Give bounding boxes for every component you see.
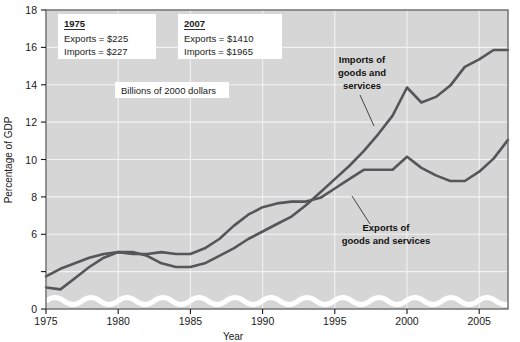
x-tick-label-1990: 1990	[251, 315, 275, 327]
y-tick-label-14: 14	[25, 79, 37, 91]
y-tick-label-16: 16	[25, 41, 37, 53]
units-note-text: Billions of 2000 dollars	[121, 85, 216, 96]
y-tick-label-8: 8	[31, 191, 37, 203]
x-axis-title: Year	[223, 331, 244, 342]
x-tick-label-1995: 1995	[323, 315, 347, 327]
callout-1975-title: 1975	[64, 18, 86, 29]
callout-1975-exports: Exports = $225	[64, 33, 128, 44]
y-tick-label-0: 0	[31, 303, 37, 315]
callout-2007-title: 2007	[184, 18, 205, 29]
x-tick-label-2000: 2000	[395, 315, 419, 327]
callout-2007-exports: Exports = $1410	[184, 33, 253, 44]
y-tick-label-10: 10	[25, 154, 37, 166]
imports-label-line1: Imports of	[339, 54, 386, 65]
chart-figure: 18 16 14 12 10 8 6 0 1975 1980 1985 1990…	[0, 0, 520, 342]
x-tick-label-1980: 1980	[107, 315, 131, 327]
y-axis-title: Percentage of GDP	[3, 116, 14, 203]
y-tick-label-18: 18	[25, 4, 37, 16]
x-tick-label-2005: 2005	[468, 315, 492, 327]
callout-2007-imports: Imports = $1965	[184, 46, 253, 57]
imports-label-line3: services	[343, 80, 381, 91]
x-tick-label-1975: 1975	[34, 315, 58, 327]
callout-1975: 1975 Exports = $225 Imports = $227	[58, 14, 156, 59]
units-note: Billions of 2000 dollars	[115, 82, 229, 98]
y-tick-label-6: 6	[31, 228, 37, 240]
exports-label-line2: goods and services	[342, 235, 431, 246]
y-tick-label-12: 12	[25, 116, 37, 128]
imports-label-line2: goods and	[338, 67, 386, 78]
x-tick-label-1985: 1985	[179, 315, 203, 327]
callout-1975-imports: Imports = $227	[64, 46, 128, 57]
callout-2007: 2007 Exports = $1410 Imports = $1965	[178, 14, 282, 59]
